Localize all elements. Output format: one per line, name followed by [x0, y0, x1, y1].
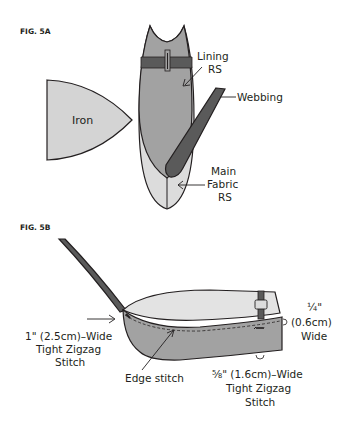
- diagram-canvas: FIG. 5A Iron Lining RS: [0, 0, 348, 431]
- quarter-inch-label-line2: (0.6cm): [291, 316, 332, 328]
- figure-5b-title: FIG. 5B: [20, 223, 51, 232]
- left-zigzag-callout: 1" (2.5cm)–Wide Tight Zigzag Stitch: [25, 315, 115, 368]
- left-zigzag-label-line2: Tight Zigzag: [35, 343, 101, 355]
- webbing-callout: Webbing: [220, 91, 283, 103]
- left-zigzag-label-line1: 1" (2.5cm)–Wide: [25, 330, 112, 342]
- main-fabric-label-line2: Fabric: [207, 178, 238, 190]
- strap-shape: [59, 239, 126, 312]
- main-fabric-label-line1: Main: [211, 165, 236, 177]
- iron-label: Iron: [72, 114, 93, 127]
- lining-label-line2: RS: [208, 63, 222, 75]
- lining-label-line1: Lining: [197, 50, 229, 62]
- bottom-zigzag-label-line1: ⅝" (1.6cm)–Wide: [212, 368, 303, 380]
- figure-5a-title: FIG. 5A: [20, 27, 51, 36]
- bottom-zigzag-label-line2: Tight Zigzag: [225, 382, 291, 394]
- webbing-label: Webbing: [237, 91, 283, 103]
- quarter-inch-label-line1: ¼": [307, 301, 322, 313]
- left-zigzag-label-line3: Stitch: [55, 356, 85, 368]
- bottom-zigzag-label-line3: Stitch: [245, 396, 275, 408]
- main-fabric-label-line3: RS: [218, 191, 232, 203]
- iron-shape: Iron: [47, 80, 132, 160]
- figure-5b: FIG. 5B 1" (2.5cm)–Wide Tight: [20, 223, 332, 408]
- bottom-zigzag-callout: ⅝" (1.6cm)–Wide Tight Zigzag Stitch: [212, 355, 303, 408]
- quarter-inch-label-line3: Wide: [301, 330, 327, 342]
- quarter-inch-callout: ¼" (0.6cm) Wide: [283, 301, 332, 342]
- edge-stitch-label: Edge stitch: [125, 372, 184, 384]
- figure-5a: FIG. 5A Iron Lining RS: [20, 26, 283, 209]
